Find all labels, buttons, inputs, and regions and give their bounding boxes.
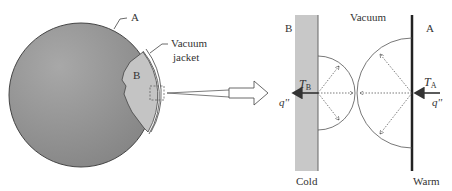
- label-b: B: [133, 69, 140, 81]
- vacuum-label: Vacuum: [350, 11, 386, 23]
- label-a: A: [131, 11, 139, 23]
- jacket-label-1: Vacuum: [171, 37, 207, 49]
- label-b-right: B: [285, 22, 292, 34]
- label-a-right: A: [426, 22, 434, 34]
- flux-left-label: q'': [279, 96, 290, 108]
- temp-a-label: TA: [424, 75, 437, 90]
- flux-right-label: q'': [432, 96, 443, 108]
- jacket-label-2: jacket: [172, 51, 199, 63]
- diagram-canvas: A B Vacuum jacket B A Vacuum TB TA q'' q…: [0, 0, 452, 191]
- warm-label: Warm: [413, 175, 440, 187]
- cold-label: Cold: [296, 175, 318, 187]
- zoom-arrow-icon: [229, 81, 268, 105]
